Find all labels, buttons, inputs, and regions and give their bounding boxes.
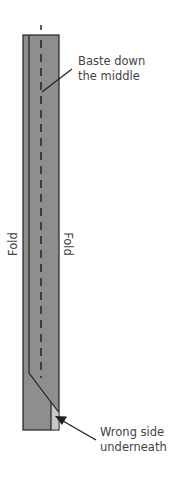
wrong-side-arrow-line [63,421,96,440]
fold-label-right: Fold [61,231,75,257]
wrong-side-label-line1: Wrong side [100,425,167,440]
wrong-side-label-line2: underneath [100,440,167,455]
wrong-side-label: Wrong side underneath [100,425,167,455]
baste-label: Baste down the middle [78,54,145,84]
baste-label-line2: the middle [78,69,145,84]
baste-label-line1: Baste down [78,54,145,69]
fold-label-left: Fold [6,231,20,257]
